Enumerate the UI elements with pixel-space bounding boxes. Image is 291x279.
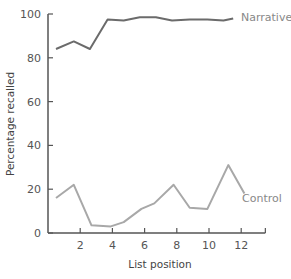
x-tick-label: 4: [109, 239, 116, 252]
narrative-label: Narrative: [241, 11, 291, 24]
x-tick-label: 6: [141, 239, 148, 252]
x-tick-label: 10: [202, 239, 216, 252]
y-tick-label: 60: [27, 96, 41, 109]
narrative-series-line: [56, 17, 233, 49]
y-tick-labels: 020406080100: [20, 8, 41, 240]
control-series-line: [56, 165, 244, 226]
x-tick-label: 2: [77, 239, 84, 252]
y-tick-label: 0: [34, 227, 41, 240]
line-chart: 020406080100 24681012 Narrative Control …: [0, 0, 291, 279]
y-tick-label: 20: [27, 183, 41, 196]
x-tick-label: 8: [173, 239, 180, 252]
x-axis-title: List position: [128, 258, 191, 270]
y-tick-label: 80: [27, 52, 41, 65]
control-label: Control: [242, 192, 282, 205]
x-tick-label: 12: [234, 239, 248, 252]
y-tick-label: 40: [27, 139, 41, 152]
x-tick-labels: 24681012: [77, 239, 249, 252]
y-axis-title: Percentage recalled: [4, 72, 16, 176]
y-tick-label: 100: [20, 8, 41, 21]
